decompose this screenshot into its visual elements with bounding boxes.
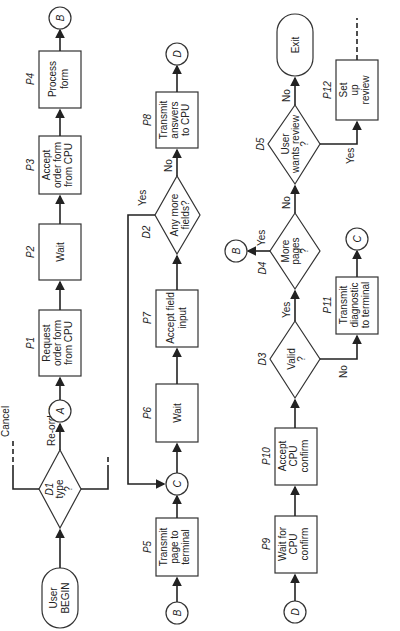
d1-line2: ? (63, 486, 74, 492)
d2-line1: Any more (169, 193, 180, 236)
exit-terminator: Exit (277, 14, 313, 76)
d4-line3: ? (299, 248, 310, 254)
connector-c-end-label: C (352, 235, 363, 243)
begin-line1: User (48, 587, 59, 609)
p9-line2: CPU (288, 533, 299, 554)
process-p1: Request order form from CPU P1 (25, 310, 81, 376)
connector-a-label: A (55, 407, 66, 415)
column-2: B Transmit page to terminal P5 C Wait (128, 43, 200, 624)
decision-d3: Valid ? D3 (257, 321, 320, 398)
process-p11: Transmit diagnostic to terminal P11 (322, 277, 378, 334)
connector-b-label: B (55, 14, 66, 21)
process-p10: Accept CPU confirm P10 (261, 428, 317, 485)
d5-id: D5 (255, 137, 266, 150)
p5-id: P5 (142, 540, 153, 553)
d4-id: D4 (257, 261, 268, 274)
decision-d1: D1 type ? (39, 450, 81, 528)
p7-id: P7 (142, 311, 153, 324)
process-p5: Transmit page to terminal P5 (142, 518, 198, 576)
d3-yes-label: Yes (281, 302, 292, 318)
process-p3: Accept order form from CPU P3 (25, 136, 81, 194)
d5-line3: ? (299, 141, 310, 147)
d2-id: D2 (141, 225, 152, 238)
d3-id: D3 (257, 352, 268, 365)
p11-id: P11 (322, 296, 333, 313)
p9-id: P9 (261, 537, 272, 550)
d2-line2: fields? (180, 200, 191, 229)
p10-id: P10 (261, 447, 272, 465)
p12-line3: review (360, 75, 371, 105)
connector-d-start: D (284, 601, 306, 623)
p4-line2: form (59, 69, 70, 89)
d3-no-label: No (338, 365, 349, 378)
p11-line1: Transmit (338, 286, 349, 325)
connector-c-end: C (346, 228, 368, 250)
p9-line3: confirm (299, 528, 310, 561)
connector-b-top: B (49, 7, 71, 29)
flowchart-canvas: User BEGIN D1 type ? Cancel Re-order (0, 0, 400, 631)
connector-a: A (49, 400, 71, 422)
connector-b-loop-label: B (231, 247, 242, 254)
p2-line1: Wait (55, 242, 66, 262)
connector-d-end: D (166, 43, 188, 65)
p1-line2: order form (52, 320, 63, 366)
p10-line2: CPU (288, 445, 299, 466)
exit-label: Exit (290, 36, 301, 53)
p11-line2: diagnostic (349, 282, 360, 327)
connector-b-start-label: B (172, 609, 183, 616)
p9-line1: Wait for (277, 526, 288, 561)
process-p6: Wait P6 (142, 384, 198, 442)
p4-id: P4 (25, 72, 36, 85)
d2-yes-label: Yes (137, 190, 148, 206)
process-p12: Set up review P12 (322, 60, 378, 120)
d3-line2: ? (296, 356, 307, 362)
process-p2: Wait P2 (25, 224, 81, 280)
process-p9: Wait for CPU confirm P9 (261, 516, 317, 573)
d5-yes-label: Yes (345, 148, 356, 164)
p3-id: P3 (25, 158, 36, 171)
column-3: D Wait for CPU confirm P9 Accept CPU con… (225, 14, 378, 623)
p1-line3: from CPU (63, 321, 74, 365)
connector-d-end-label: D (172, 50, 183, 57)
p3-line1: Accept (41, 149, 52, 180)
p1-id: P1 (25, 337, 36, 349)
connector-b-start: B (166, 602, 188, 624)
p11-line3: to terminal (360, 282, 371, 329)
p10-line1: Accept (277, 440, 288, 471)
connector-d-start-label: D (290, 608, 301, 615)
p8-line2: answers (169, 101, 180, 138)
process-p7: Accept field input P7 (142, 290, 198, 347)
p1-line1: Request (41, 324, 52, 361)
d4-yes-label: Yes (256, 230, 267, 246)
p12-line1: Set (338, 82, 349, 97)
column-1: User BEGIN D1 type ? Cancel Re-order (0, 7, 108, 628)
process-p8: Transmit answers to CPU P8 (142, 92, 198, 148)
p12-id: P12 (322, 81, 333, 99)
p6-line1: Wait (172, 403, 183, 423)
d5-no-label: No (281, 89, 292, 102)
p7-line2: input (177, 307, 188, 329)
p2-id: P2 (25, 245, 36, 258)
begin-line2: BEGIN (60, 582, 71, 613)
decision-d5: User wants review ? D5 (255, 105, 320, 184)
p10-line3: confirm (299, 440, 310, 473)
d2-no-label: No (163, 159, 174, 172)
process-p4: Process form P4 (25, 51, 81, 108)
p3-line3: from CPU (63, 143, 74, 187)
p5-line3: terminal (180, 529, 191, 565)
p8-line3: to CPU (180, 104, 191, 136)
p5-line2: page to (169, 530, 180, 564)
p7-line1: Accept field (165, 292, 176, 344)
d4-no-label: No (281, 196, 292, 209)
p5-line1: Transmit (158, 528, 169, 567)
connector-b-loop: B (225, 240, 247, 262)
p12-line2: up (349, 84, 360, 96)
connector-c-label: C (172, 480, 183, 488)
p3-line2: order form (52, 142, 63, 188)
cancel-label: Cancel (0, 406, 11, 437)
connector-c: C (166, 473, 188, 495)
p4-line1: Process (47, 61, 58, 97)
begin-terminator: User BEGIN (42, 568, 78, 628)
p8-line1: Transmit (158, 101, 169, 140)
p6-id: P6 (142, 406, 153, 419)
